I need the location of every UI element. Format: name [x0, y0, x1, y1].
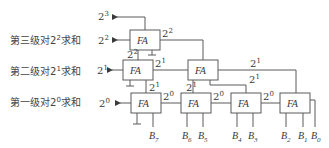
output-2-1: 21 — [97, 64, 108, 76]
fa-bot-4: FA — [280, 93, 310, 113]
svg-text:FA: FA — [194, 65, 207, 76]
svg-text:FA: FA — [136, 35, 149, 46]
fa-top: FA — [130, 30, 160, 50]
wire-label-mid-short: 21 — [249, 73, 260, 85]
output-2-3: 23 — [98, 10, 109, 22]
fa-bot-2: FA — [181, 93, 211, 113]
wire-label-bot-2: 20 — [213, 90, 224, 102]
adder-tree-diagram: 第三级对22求和 第二级对21求和 第一级对20求和 FA FA FA FA F… — [0, 0, 329, 148]
fa-mid-left: FA — [123, 60, 153, 80]
wire-label-mid-down: 21 — [149, 81, 160, 93]
row-label-level3: 第三级对22求和 — [10, 34, 81, 46]
wire-label-mid-right: 21 — [155, 57, 166, 69]
input-b3: B3 — [248, 130, 258, 144]
input-b5: B5 — [198, 130, 208, 144]
wire-label-mid-short-left: 21 — [186, 81, 197, 93]
wire-label-bot-3: 20 — [263, 90, 274, 102]
fa-bot-3: FA — [231, 93, 261, 113]
wire-label-bot-1: 20 — [163, 90, 174, 102]
fa-mid-right: FA — [188, 60, 218, 80]
svg-text:FA: FA — [137, 98, 150, 109]
input-b1: B1 — [298, 130, 308, 144]
fa-bot-1: FA — [131, 93, 161, 113]
svg-text:FA: FA — [286, 98, 299, 109]
svg-text:FA: FA — [129, 65, 142, 76]
output-2-2: 22 — [98, 34, 109, 46]
row-label-level1: 第一级对20求和 — [10, 96, 81, 108]
svg-text:FA: FA — [237, 98, 250, 109]
input-b0: B0 — [311, 130, 321, 144]
row-label-level2: 第二级对21求和 — [10, 65, 81, 77]
input-b2: B2 — [281, 130, 291, 144]
input-b6: B6 — [182, 130, 192, 144]
input-b7: B7 — [149, 130, 159, 144]
wire-label-top-left: 22 — [127, 48, 138, 60]
svg-text:FA: FA — [187, 98, 200, 109]
input-b4: B4 — [232, 130, 242, 144]
wire-label-top-right: 22 — [162, 27, 173, 39]
wire-label-mid-long: 21 — [250, 57, 261, 69]
output-2-0: 20 — [99, 97, 110, 109]
